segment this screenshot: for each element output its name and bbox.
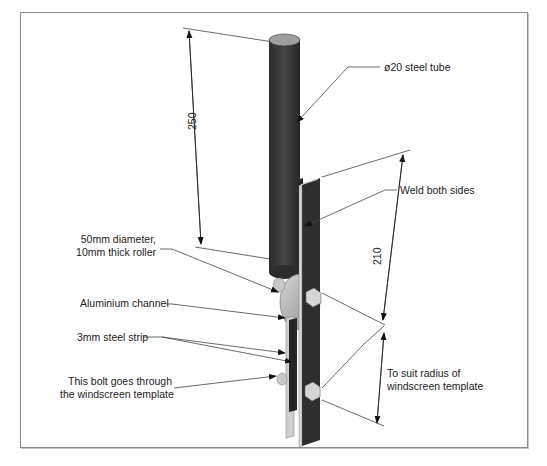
dimension-210: [322, 150, 410, 325]
label-radius-line1: To suit radius of: [387, 367, 483, 380]
label-aluminium-channel: Aluminium channel: [80, 297, 169, 310]
label-steel-strip: 3mm steel strip: [77, 331, 148, 344]
label-roller-line1: 50mm diameter,: [56, 233, 156, 246]
label-steel-tube: ø20 steel tube: [384, 61, 451, 74]
dimension-radius: [322, 326, 384, 426]
label-radius: To suit radius of windscreen template: [387, 367, 483, 393]
rear-steel-strip: [289, 318, 297, 412]
label-radius-line2: windscreen template: [387, 380, 483, 393]
dimension-label-250: 250: [186, 112, 198, 130]
steel-tube: [269, 34, 300, 279]
label-roller: 50mm diameter, 10mm thick roller: [56, 233, 156, 259]
front-steel-strip: [299, 178, 320, 447]
label-bolt: This bolt goes through the windscreen te…: [60, 375, 172, 401]
label-bolt-line1: This bolt goes through: [60, 375, 172, 388]
label-roller-line2: 10mm thick roller: [56, 246, 156, 259]
label-weld: Weld both sides: [400, 184, 475, 197]
label-bolt-line2: the windscreen template: [60, 388, 172, 401]
dimension-label-210: 210: [371, 247, 383, 265]
